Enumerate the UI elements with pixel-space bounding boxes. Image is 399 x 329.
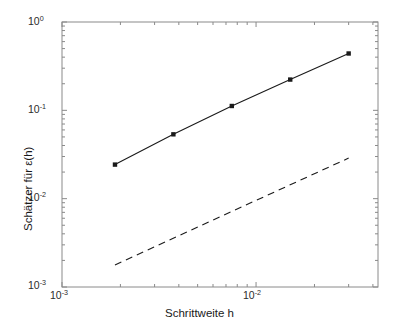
data-point-marker bbox=[113, 162, 117, 166]
series-line-0 bbox=[115, 54, 349, 165]
log-log-convergence-plot bbox=[0, 0, 399, 329]
y-tick-label-1: 10-1 bbox=[28, 103, 46, 115]
x-tick-label-1: 10-2 bbox=[243, 289, 261, 301]
data-point-marker bbox=[288, 77, 292, 81]
y-tick-label-0: 100 bbox=[28, 15, 44, 27]
data-point-marker bbox=[171, 132, 175, 136]
y-axis-title: Schätzer für ε(h) bbox=[22, 147, 34, 231]
data-series-layer bbox=[113, 51, 351, 265]
data-point-marker bbox=[346, 51, 350, 55]
x-axis-ticks bbox=[62, 22, 373, 287]
x-axis-title: Schrittweite h bbox=[0, 307, 399, 319]
y-tick-label-3: 10-3 bbox=[28, 279, 46, 291]
data-point-marker bbox=[230, 104, 234, 108]
figure-canvas: 10-3 10-2 100 10-1 10-2 10-3 Schrittweit… bbox=[0, 0, 399, 329]
x-tick-label-0: 10-3 bbox=[50, 289, 68, 301]
series-line-1 bbox=[115, 158, 349, 265]
